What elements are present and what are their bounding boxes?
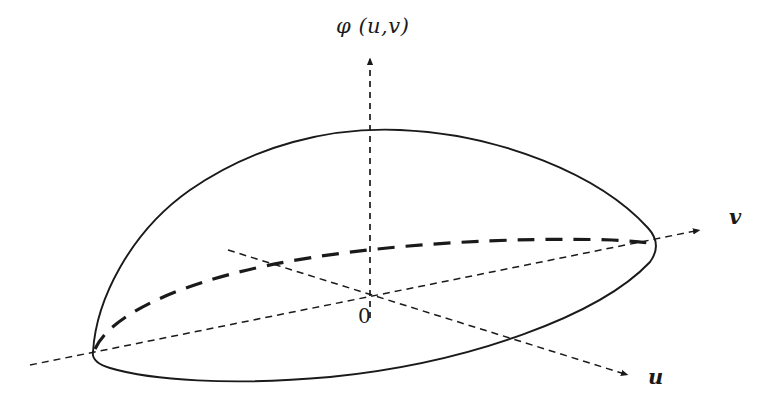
v-axis-label: v <box>729 206 741 227</box>
phi-axis-label: φ (u,v) <box>336 16 409 37</box>
base-ellipse-hidden-edge <box>95 239 654 349</box>
u-axis-label: u <box>648 366 663 387</box>
origin-label: 0 <box>358 306 371 326</box>
diagram-svg <box>0 0 784 418</box>
figure-canvas: φ (u,v) v u 0 <box>0 0 784 418</box>
u-axis-line <box>228 250 628 375</box>
